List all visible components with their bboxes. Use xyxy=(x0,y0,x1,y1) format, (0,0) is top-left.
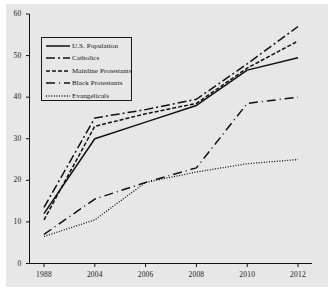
y-tick-label: 50 xyxy=(6,51,22,60)
x-tick-label: 2006 xyxy=(131,270,161,279)
chart-legend: U.S. Population Catholics Mainline Prote… xyxy=(41,37,132,101)
y-tick-label: 60 xyxy=(6,9,22,18)
legend-line-sample-solid xyxy=(46,41,70,51)
legend-entry: Black Protestants xyxy=(46,77,123,89)
y-tick-label: 0 xyxy=(6,259,22,268)
legend-label-black-protestants: Black Protestants xyxy=(72,79,123,87)
y-tick-label: 20 xyxy=(6,175,22,184)
y-tick-label: 10 xyxy=(6,217,22,226)
legend-label-us-population: U.S. Population xyxy=(72,42,118,50)
x-tick-label: 2010 xyxy=(232,270,262,279)
legend-line-sample-dash-dot xyxy=(46,78,70,88)
x-tick-label: 1988 xyxy=(29,270,59,279)
legend-label-evangelicals: Evangelicals xyxy=(72,92,109,100)
legend-line-sample-short-dash xyxy=(46,66,70,76)
legend-line-sample-dotted xyxy=(46,91,70,101)
legend-entry: Mainline Protestants xyxy=(46,65,132,77)
legend-entry: U.S. Population xyxy=(46,40,118,52)
y-tick-label: 40 xyxy=(6,92,22,101)
legend-entry: Catholics xyxy=(46,52,99,64)
x-tick-label: 2012 xyxy=(283,270,313,279)
legend-line-sample-long-dash xyxy=(46,53,70,63)
legend-label-catholics: Catholics xyxy=(72,54,99,62)
x-tick-label: 2004 xyxy=(80,270,110,279)
y-axis-ticks xyxy=(26,14,30,264)
legend-label-mainline-protestants: Mainline Protestants xyxy=(72,67,132,75)
x-tick-label: 2008 xyxy=(181,270,211,279)
chart-page: 0102030405060 198820042006200820102012 U… xyxy=(0,0,334,295)
series-line-black-protestants xyxy=(44,97,298,234)
series-line-evangelicals xyxy=(44,160,298,237)
x-axis-ticks xyxy=(44,264,298,268)
y-tick-label: 30 xyxy=(6,134,22,143)
legend-entry: Evangelicals xyxy=(46,90,109,102)
